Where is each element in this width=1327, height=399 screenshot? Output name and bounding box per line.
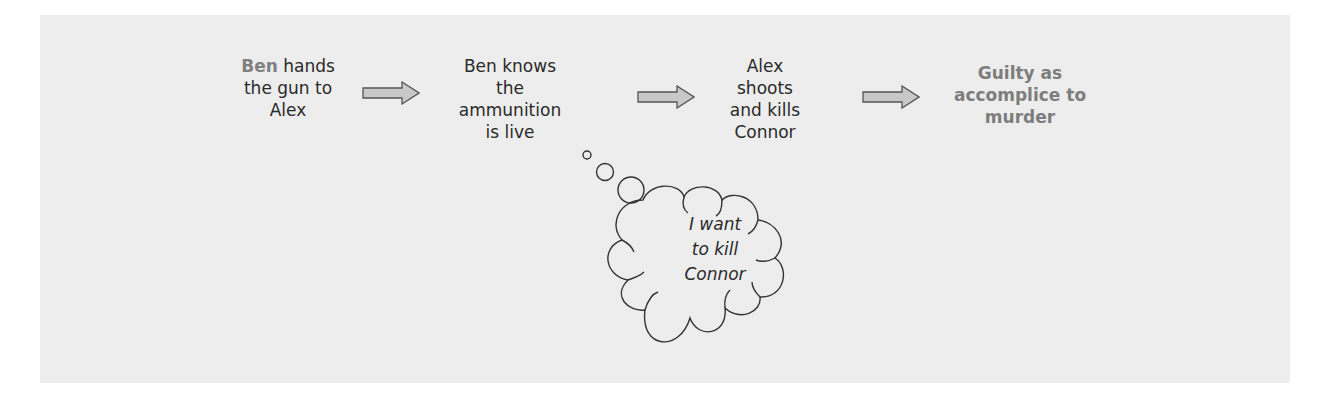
step-3-line-3: and kills — [710, 99, 820, 121]
step-2-line-2: the — [450, 77, 570, 99]
thought-bubble-text: I want to kill Connor — [660, 212, 770, 287]
step-ben-knows-ammunition: Ben knows the ammunition is live — [450, 55, 570, 143]
step-alex-shoots: Alex shoots and kills Connor — [710, 55, 820, 143]
outcome-line-3: murder — [935, 106, 1105, 128]
outcome-line-1: Guilty as — [935, 62, 1105, 84]
right-arrow-icon — [862, 85, 920, 109]
step-2-line-3: ammunition — [450, 99, 570, 121]
step-2-line-4: is live — [450, 121, 570, 143]
step-1-line-2: the gun to — [228, 77, 348, 99]
outcome-guilty-accomplice: Guilty as accomplice to murder — [935, 62, 1105, 128]
right-arrow-icon — [637, 85, 695, 109]
right-arrow-icon — [362, 81, 420, 105]
step-3-line-4: Connor — [710, 121, 820, 143]
step-ben-hands-gun: Ben hands the gun to Alex — [228, 55, 348, 121]
thought-line-2: to kill — [660, 237, 770, 262]
outcome-line-2: accomplice to — [935, 84, 1105, 106]
step-2-line-1: Ben knows — [450, 55, 570, 77]
ben-highlight: Ben — [241, 56, 278, 76]
thought-line-3: Connor — [660, 262, 770, 287]
step-3-line-2: shoots — [710, 77, 820, 99]
step-1-line-3: Alex — [228, 99, 348, 121]
step-1-line-1: Ben hands — [228, 55, 348, 77]
step-3-line-1: Alex — [710, 55, 820, 77]
thought-line-1: I want — [660, 212, 770, 237]
